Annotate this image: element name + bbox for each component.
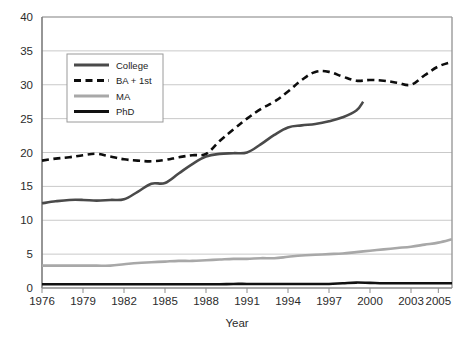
legend-label: BA + 1st (116, 75, 152, 86)
y-tick-label: 25 (20, 113, 33, 125)
x-tick-label: 1997 (316, 295, 342, 307)
legend-label: PhD (116, 106, 135, 117)
x-tick-label: 2000 (357, 295, 383, 307)
chart-figure: 0510152025303540 19761979198219851988199… (0, 0, 474, 348)
line-chart: 0510152025303540 19761979198219851988199… (0, 0, 474, 348)
y-tick-label: 35 (20, 45, 33, 57)
x-tick-label: 1976 (29, 295, 55, 307)
chart-legend: CollegeBA + 1stMAPhD (67, 54, 163, 122)
x-tick-label: 1988 (193, 295, 219, 307)
x-tick-label: 1994 (275, 295, 301, 307)
x-tick-label: 2005 (426, 295, 452, 307)
x-tick-label: 1985 (152, 295, 178, 307)
y-tick-label: 20 (20, 147, 33, 159)
x-tick-label: 1991 (234, 295, 260, 307)
legend-label: College (116, 60, 148, 71)
y-tick-label: 10 (20, 214, 33, 226)
y-tick-label: 15 (20, 180, 33, 192)
y-tick-label: 30 (20, 79, 33, 91)
legend-label: MA (116, 91, 131, 102)
y-tick-label: 40 (20, 11, 33, 23)
y-tick-label: 5 (27, 248, 33, 260)
x-tick-label: 1982 (111, 295, 137, 307)
x-tick-label: 1979 (70, 295, 96, 307)
x-axis-title: Year (225, 317, 248, 329)
x-tick-label: 2003 (398, 295, 424, 307)
y-tick-label: 0 (27, 282, 33, 294)
